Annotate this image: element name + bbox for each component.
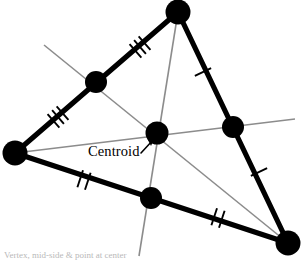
- figure-root: Centroid Vertex, mid-side & point at cen…: [0, 0, 303, 263]
- midpoint-right-side-dot: [222, 116, 244, 138]
- vertex-top-dot: [166, 0, 191, 25]
- vertex-bottom-right-dot: [276, 231, 301, 256]
- centroid-label: Centroid: [88, 144, 140, 159]
- midpoint-left-side-dot: [85, 71, 107, 93]
- triangle-centroid-diagram: [0, 0, 303, 263]
- midpoint-bottom-side-dot: [140, 187, 162, 209]
- median-from-bottom-right: [44, 45, 288, 243]
- vertex-left-dot: [3, 141, 28, 166]
- caption-clipped: Vertex, mid-side & point at center: [4, 250, 204, 262]
